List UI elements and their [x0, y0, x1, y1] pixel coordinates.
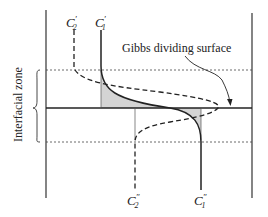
gibbs-label: Gibbs dividing surface [122, 41, 231, 55]
label-c2-prime: C′2 [66, 14, 78, 32]
gibbs-arrow [185, 56, 230, 103]
label-c1-prime: C′1 [95, 14, 107, 32]
label-c1-double-prime: C″1 [194, 192, 207, 210]
label-c2-double-prime: C″2 [127, 192, 140, 210]
interfacial-zone-label: Interfacial zone [11, 67, 25, 142]
interfacial-zone-brace [33, 70, 40, 142]
gibbs-diagram: C′2 C′1 C″2 C″1 Gibbs dividing surface I… [0, 0, 268, 217]
arrow-head-icon [227, 99, 233, 106]
